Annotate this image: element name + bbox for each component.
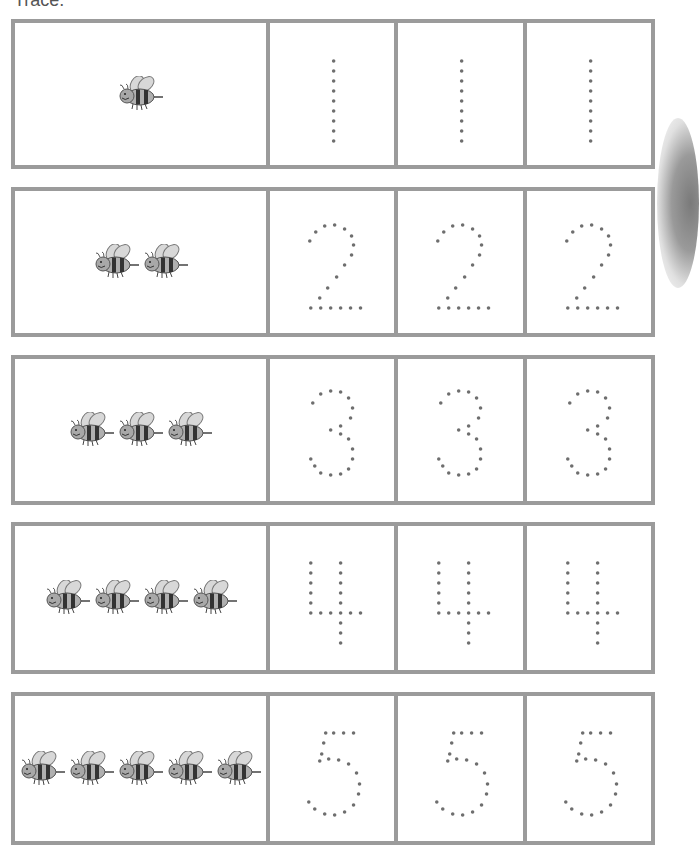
trace-cell-number-4[interactable] bbox=[527, 526, 651, 670]
trace-cell-number-2[interactable] bbox=[398, 191, 526, 333]
worksheet-instruction: Trace. bbox=[14, 0, 64, 11]
bee-icon bbox=[215, 751, 262, 787]
bee-icon bbox=[166, 412, 213, 448]
trace-cell-number-5[interactable] bbox=[270, 696, 398, 841]
worksheet-row-1 bbox=[11, 19, 655, 169]
dotted-number-2-icon bbox=[398, 191, 522, 333]
dotted-number-5-icon bbox=[527, 696, 651, 841]
trace-cell-number-3[interactable] bbox=[527, 359, 651, 501]
bee-count-cell bbox=[15, 526, 270, 670]
bee-icon bbox=[117, 751, 164, 787]
worksheet-row-5 bbox=[11, 692, 655, 845]
trace-cell-number-3[interactable] bbox=[270, 359, 398, 501]
trace-cell-number-1[interactable] bbox=[398, 23, 526, 165]
dotted-number-3-icon bbox=[270, 359, 394, 501]
dotted-number-3-icon bbox=[398, 359, 522, 501]
bee-count-cell bbox=[15, 23, 270, 165]
bee-icon bbox=[93, 580, 140, 616]
trace-cell-number-4[interactable] bbox=[398, 526, 526, 670]
dotted-number-2-icon bbox=[527, 191, 651, 333]
dotted-number-1-icon bbox=[270, 23, 394, 165]
worksheet-row-4 bbox=[11, 522, 655, 674]
dotted-number-5-icon bbox=[270, 696, 394, 841]
dotted-number-4-icon bbox=[527, 526, 651, 670]
bee-icon bbox=[117, 412, 164, 448]
worksheet-row-3 bbox=[11, 355, 655, 505]
trace-cell-number-1[interactable] bbox=[527, 23, 651, 165]
dotted-number-3-icon bbox=[527, 359, 651, 501]
bee-icon bbox=[142, 580, 189, 616]
bee-icon bbox=[44, 580, 91, 616]
bee-icon bbox=[166, 751, 213, 787]
bee-icon bbox=[93, 244, 140, 280]
worksheet-row-2 bbox=[11, 187, 655, 337]
dotted-number-1-icon bbox=[398, 23, 522, 165]
dotted-number-1-icon bbox=[527, 23, 651, 165]
dotted-number-4-icon bbox=[398, 526, 522, 670]
bee-count-cell bbox=[15, 696, 270, 841]
trace-cell-number-2[interactable] bbox=[527, 191, 651, 333]
bee-icon bbox=[68, 751, 115, 787]
bee-icon bbox=[142, 244, 189, 280]
trace-cell-number-5[interactable] bbox=[527, 696, 651, 841]
bee-count-cell bbox=[15, 191, 270, 333]
bee-icon bbox=[19, 751, 66, 787]
trace-cell-number-4[interactable] bbox=[270, 526, 398, 670]
dotted-number-4-icon bbox=[270, 526, 394, 670]
trace-cell-number-5[interactable] bbox=[398, 696, 526, 841]
dotted-number-2-icon bbox=[270, 191, 394, 333]
bee-count-cell bbox=[15, 359, 270, 501]
bee-icon bbox=[68, 412, 115, 448]
dotted-number-5-icon bbox=[398, 696, 522, 841]
page-curl-shadow bbox=[657, 118, 699, 288]
trace-cell-number-1[interactable] bbox=[270, 23, 398, 165]
bee-icon bbox=[191, 580, 238, 616]
bee-icon bbox=[117, 76, 164, 112]
trace-cell-number-3[interactable] bbox=[398, 359, 526, 501]
trace-cell-number-2[interactable] bbox=[270, 191, 398, 333]
